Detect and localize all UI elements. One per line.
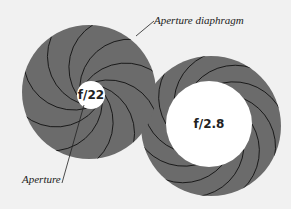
f2-8-label: f/2.8 — [194, 117, 225, 131]
diaphragm-label: Aperture diaphragm — [153, 14, 244, 26]
aperture-label: Aperture — [21, 173, 61, 185]
aperture-diagram: f/2.8 f/22 Aperture diaphragm Aperture — [0, 0, 291, 209]
diaphragm-leader — [136, 21, 154, 36]
diaphragm-f2-8: f/2.8 — [136, 51, 281, 196]
f22-label: f/22 — [78, 88, 104, 102]
diaphragm-f22: f/22 — [22, 25, 159, 166]
